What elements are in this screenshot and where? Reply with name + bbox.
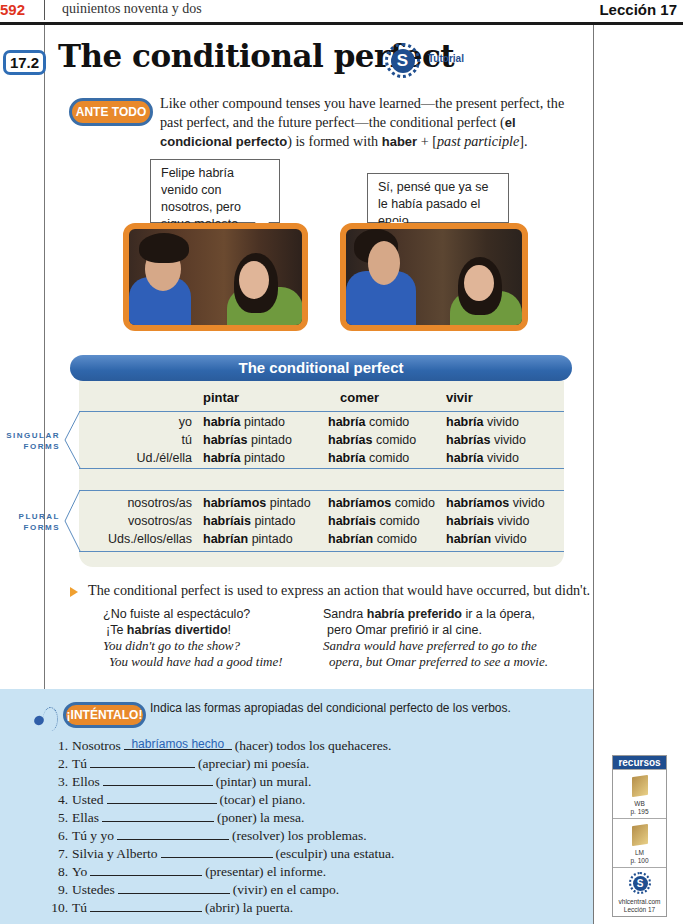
page-number: 592 <box>0 1 25 18</box>
exercise-item: 4.Usted(tocar) el piano. <box>48 792 305 808</box>
table-title: The conditional perfect <box>70 355 572 381</box>
cell: habrían vivido <box>446 532 527 546</box>
cell: habríais comido <box>328 514 420 528</box>
photo-felipe-scene-1 <box>123 223 308 331</box>
answer-blank[interactable] <box>118 882 230 894</box>
recursos-title: recursos <box>613 756 666 769</box>
pronoun-ud: Ud./él/ella <box>82 451 192 465</box>
section-number-badge: 17.2 <box>3 50 46 75</box>
answer-blank[interactable] <box>161 846 273 858</box>
right-margin-divider <box>593 25 594 924</box>
header-rule <box>0 22 683 25</box>
exercise-instructions: Indica las formas apropiadas del condici… <box>150 701 511 715</box>
example-right: Sandra habría preferido ir a la ópera, p… <box>323 606 548 670</box>
page-number-words: quinientos noventa y dos <box>62 1 202 17</box>
column-header-vivir: vivir <box>446 390 473 405</box>
singular-top-line <box>79 411 564 412</box>
column-header-pintar: pintar <box>203 390 239 405</box>
bullet-arrow-icon <box>70 587 78 597</box>
exercise-item: 10.Tú(abrir) la puerta. <box>48 900 293 916</box>
plural-bracket <box>64 490 81 552</box>
plural-bottom-line <box>79 551 564 552</box>
cell: habría pintado <box>203 415 285 429</box>
tutorial-link[interactable]: Tutorial <box>428 53 464 64</box>
intro-paragraph: Like other compound tenses you have lear… <box>160 94 580 151</box>
answer-blank[interactable] <box>117 828 229 840</box>
intentalo-badge: ¡INTÉNTALO! <box>63 702 146 728</box>
recursos-lab-manual[interactable]: LMp. 100 <box>613 818 666 867</box>
plural-forms-label: PLURALFORMS <box>0 511 60 533</box>
answer-blank[interactable] <box>103 774 213 786</box>
pronoun-tu: tú <box>82 433 192 447</box>
cell: habría comido <box>328 451 409 465</box>
answer-blank[interactable] <box>90 756 195 768</box>
mouse-trail-icon <box>43 707 58 731</box>
answer-blank[interactable] <box>107 792 217 804</box>
woman-head <box>464 265 494 301</box>
cell: habría comido <box>328 415 409 429</box>
cell: habrían pintado <box>203 532 293 546</box>
exercise-item: 6.Tú y yo(resolver) los problemas. <box>48 828 367 844</box>
singular-forms-label: SINGULARFORMS <box>0 430 60 452</box>
cell: habría vivido <box>446 451 519 465</box>
cell: habrían comido <box>328 532 417 546</box>
pronoun-uds: Uds./ellos/ellas <box>82 532 192 546</box>
exercise-item: 3.Ellos(pintar) un mural. <box>48 774 311 790</box>
recursos-workbook[interactable]: WBp. 195 <box>613 769 666 818</box>
cell: habrías vivido <box>446 433 526 447</box>
explanation-text: The conditional perfect is used to expre… <box>88 582 590 599</box>
exercise-item: 1.Nosotroshabríamos hecho(hacer) todos l… <box>48 738 391 754</box>
cell: habríamos comido <box>328 496 435 510</box>
cell: habríamos pintado <box>203 496 311 510</box>
man-head <box>368 241 400 285</box>
cell: habríais pintado <box>203 514 295 528</box>
plural-top-line <box>79 490 564 491</box>
answer-blank[interactable] <box>90 900 202 912</box>
answer-blank[interactable]: habríamos hecho <box>124 738 232 750</box>
cell: habrías comido <box>328 433 416 447</box>
answer-blank[interactable] <box>102 810 214 822</box>
pronoun-yo: yo <box>82 415 192 429</box>
exercise-item: 5.Ellas(poner) la mesa. <box>48 810 304 826</box>
supersite-s-icon: S <box>391 49 415 73</box>
pronoun-vosotros: vosotros/as <box>82 514 192 528</box>
cell: habría pintado <box>203 451 285 465</box>
man-hair <box>139 233 189 263</box>
lesson-label: Lección 17 <box>599 1 677 18</box>
answer-blank[interactable] <box>90 864 202 876</box>
singular-bottom-line <box>79 468 564 469</box>
cell: habría vivido <box>446 415 519 429</box>
column-header-comer: comer <box>340 390 379 405</box>
header-divider <box>44 0 45 20</box>
woman-head <box>239 261 269 299</box>
pronoun-nosotros: nosotros/as <box>82 496 192 510</box>
left-margin-divider <box>44 25 45 689</box>
singular-bracket <box>64 411 81 469</box>
recursos-box: recursos WBp. 195 LMp. 100 S vhlcentral.… <box>612 755 667 917</box>
lab-manual-icon <box>632 824 648 846</box>
photo-felipe-scene-2 <box>340 223 528 331</box>
exercise-item: 8.Yo(presentar) el informe. <box>48 864 326 880</box>
cell: habrías pintado <box>203 433 292 447</box>
speech-bubble-2: Sí, pensé que ya se le había pasado el e… <box>367 173 509 223</box>
example-left: ¿No fuiste al espectáculo? ¡Te habrías d… <box>103 606 283 670</box>
cell: habríais vivido <box>446 514 529 528</box>
cell: habríamos vivido <box>446 496 545 510</box>
tutorial-icon[interactable]: S <box>385 43 420 78</box>
workbook-icon <box>632 775 648 797</box>
recursos-vhlcentral[interactable]: S vhlcentral.comLección 17 <box>613 867 666 916</box>
ante-todo-badge: ANTE TODO <box>69 98 153 126</box>
speech-bubble-1: Felipe habría venido con nosotros, pero … <box>150 159 280 223</box>
exercise-item: 2.Tú(apreciar) mi poesía. <box>48 756 309 772</box>
exercise-item: 9.Ustedes(vivir) en el campo. <box>48 882 339 898</box>
supersite-s-icon: S <box>629 872 651 894</box>
exercise-item: 7.Silvia y Alberto(esculpir) una estatua… <box>48 846 394 862</box>
